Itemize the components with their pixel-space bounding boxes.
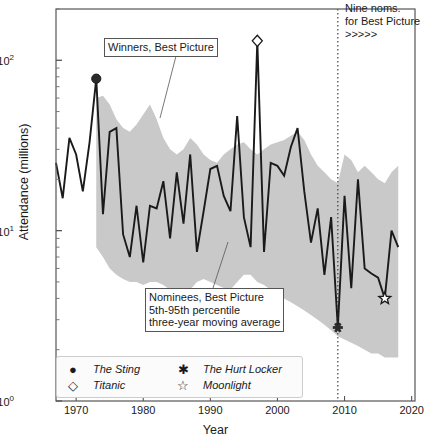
y-tick-10^2: 102 (0, 53, 14, 67)
annotation-nominees-best-picture: Nominees, Best Picture 5th-95th percenti… (145, 288, 284, 332)
legend-glyph-filled-circle: ● (65, 362, 81, 377)
legend-glyph-open-diamond: ◇ (65, 378, 81, 393)
legend-label-moonlight: Moonlight (203, 379, 251, 391)
x-tick-1990: 1990 (198, 404, 222, 416)
legend-glyph-open-star: ☆ (175, 378, 191, 393)
annotation-winners-best-picture: Winners, Best Picture (104, 38, 218, 57)
marker-titanic (252, 35, 262, 46)
y-tick-10^0: 100 (0, 394, 14, 408)
x-tick-1980: 1980 (131, 404, 155, 416)
x-tick-2000: 2000 (265, 404, 289, 416)
legend-label-the-hurt-locker: The Hurt Locker (203, 363, 282, 375)
x-axis-label: Year (0, 423, 431, 437)
x-tick-2010: 2010 (332, 404, 356, 416)
legend-label-titanic: Titanic (93, 379, 125, 391)
x-tick-1970: 1970 (64, 404, 88, 416)
y-tick-10^1: 101 (0, 224, 14, 238)
marker-the-sting (92, 74, 101, 83)
x-tick-2020: 2020 (399, 404, 423, 416)
chart-legend: ● The Sting ◇ Titanic ✱ The Hurt Locker … (56, 356, 303, 398)
legend-label-the-sting: The Sting (93, 363, 140, 375)
y-axis-label: Attendance (millions) (17, 82, 31, 282)
legend-glyph-asterisk: ✱ (175, 362, 191, 377)
annotation-nine-noms: Nine noms. for Best Picture >>>>> (345, 2, 420, 41)
